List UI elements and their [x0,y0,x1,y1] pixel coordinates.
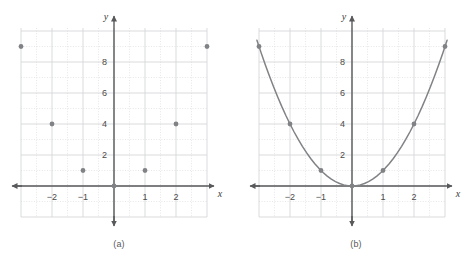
chart-panel-b: −2 −1 1 2 2 4 6 8 x y [237,0,475,270]
data-point [381,168,386,173]
data-point [288,122,293,127]
data-point [19,44,24,49]
figure-container: −2 −1 1 2 2 4 6 8 x y [0,0,475,270]
panel-caption-a: (a) [0,239,238,249]
tick-labels-a: −2 −1 1 2 2 4 6 8 [47,57,179,202]
data-point [257,44,262,49]
scatter-plot-a: −2 −1 1 2 2 4 6 8 x y [0,0,238,238]
ytick-a-3: 8 [102,57,107,67]
ytick-b-3: 8 [340,57,345,67]
ytick-b-0: 2 [340,150,345,160]
panel-caption-b: (b) [237,239,475,249]
ytick-a-1: 4 [102,119,107,129]
data-point [412,122,417,127]
data-point [50,122,55,127]
axes-a [12,16,214,226]
data-point [112,184,117,189]
xtick-a-1: −1 [78,192,88,202]
axes-b [250,16,452,226]
ytick-b-1: 4 [340,119,345,129]
chart-panel-a: −2 −1 1 2 2 4 6 8 x y [0,0,238,270]
ytick-b-2: 6 [340,88,345,98]
xtick-a-2: 1 [142,192,147,202]
ytick-a-2: 6 [102,88,107,98]
data-point [350,184,355,189]
data-point [81,168,86,173]
xtick-b-2: 1 [380,192,385,202]
data-point [319,168,324,173]
ytick-a-0: 2 [102,150,107,160]
data-point [443,44,448,49]
xtick-a-3: 2 [173,192,178,202]
x-axis-label-b: x [455,188,461,199]
y-axis-label-a: y [103,11,109,22]
y-axis-label-b: y [341,11,347,22]
xtick-b-3: 2 [411,192,416,202]
xtick-b-1: −1 [316,192,326,202]
tick-labels-b: −2 −1 1 2 2 4 6 8 [285,57,417,202]
data-point [205,44,210,49]
data-point [143,168,148,173]
xtick-b-0: −2 [285,192,295,202]
data-point [174,122,179,127]
xtick-a-0: −2 [47,192,57,202]
x-axis-label-a: x [217,188,223,199]
line-plot-b: −2 −1 1 2 2 4 6 8 x y [237,0,475,238]
